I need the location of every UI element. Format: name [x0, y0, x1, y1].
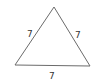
left-side-label: 7 — [27, 29, 33, 39]
triangle-diagram: 7 7 7 — [0, 0, 91, 83]
bottom-side-label: 7 — [49, 71, 55, 81]
right-side-label: 7 — [75, 30, 81, 40]
